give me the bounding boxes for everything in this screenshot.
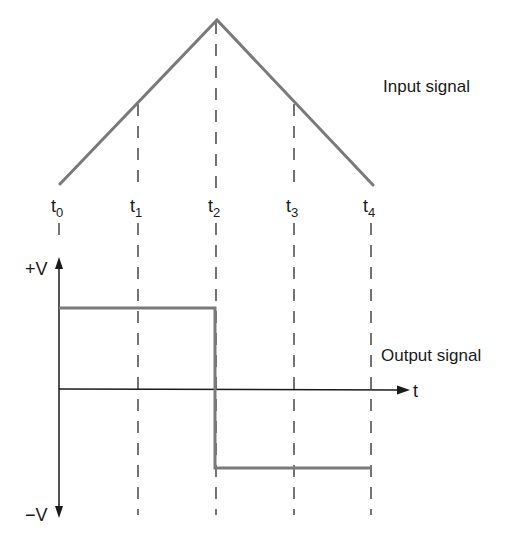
time-label-t2: t2 xyxy=(208,196,220,220)
time-axis-arrow-icon xyxy=(397,386,410,395)
time-labels: t0 t1 t2 t3 t4 xyxy=(51,196,375,220)
input-signal-label: Input signal xyxy=(383,77,470,96)
time-label-t3: t3 xyxy=(286,196,298,220)
voltage-axis-down-arrow-icon xyxy=(55,506,63,518)
minus-v-label: −V xyxy=(25,505,48,525)
time-label-t0: t0 xyxy=(51,196,63,220)
plus-v-label: +V xyxy=(25,259,48,279)
output-axes xyxy=(55,257,410,518)
output-square-waveform xyxy=(59,308,371,468)
voltage-axis-up-arrow-icon xyxy=(55,257,63,269)
time-label-t1: t1 xyxy=(130,196,142,220)
time-axis xyxy=(59,389,400,390)
time-axis-label: t xyxy=(413,381,418,401)
comparator-waveform-diagram: t0 t1 t2 t3 t4 Input signal +V −V t Outp… xyxy=(0,0,529,539)
time-label-t4: t4 xyxy=(363,196,375,220)
output-signal-label: Output signal xyxy=(381,346,481,365)
